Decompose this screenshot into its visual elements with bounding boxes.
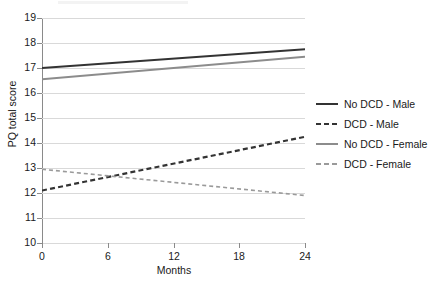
legend-swatch-icon (316, 159, 338, 169)
legend-item-no-dcd-female[interactable]: No DCD - Female (316, 134, 433, 154)
chart-legend: No DCD - MaleDCD - MaleNo DCD - FemaleDC… (316, 94, 433, 174)
series-line-dcd-female (42, 169, 305, 195)
y-axis-title: PQ total score (6, 54, 18, 174)
x-tick-label-12: 12 (159, 250, 189, 262)
x-tick-mark-18 (239, 243, 240, 248)
legend-item-dcd-male[interactable]: DCD - Male (316, 114, 433, 134)
y-tick-label-19: 19 (2, 12, 36, 23)
x-tick-label-24: 24 (290, 250, 320, 262)
x-axis-title: Months (42, 264, 306, 276)
legend-label: DCD - Female (344, 158, 411, 170)
x-tick-label-6: 6 (93, 250, 123, 262)
legend-label: No DCD - Male (344, 98, 415, 110)
x-tick-mark-0 (42, 243, 43, 248)
x-tick-label-18: 18 (224, 250, 254, 262)
x-tick-mark-6 (108, 243, 109, 248)
scan-artifact (58, 1, 188, 4)
legend-item-no-dcd-male[interactable]: No DCD - Male (316, 94, 433, 114)
y-tick-label-18: 18 (2, 37, 36, 48)
series-lines (42, 18, 305, 243)
legend-swatch-icon (316, 139, 338, 149)
y-tick-label-11: 11 (2, 212, 36, 223)
x-tick-mark-12 (174, 243, 175, 248)
y-tick-label-10: 10 (2, 237, 36, 248)
legend-label: DCD - Male (344, 118, 399, 130)
series-line-dcd-male (42, 137, 305, 191)
legend-swatch-icon (316, 119, 338, 129)
legend-swatch-icon (316, 99, 338, 109)
x-tick-mark-24 (305, 243, 306, 248)
legend-item-dcd-female[interactable]: DCD - Female (316, 154, 433, 174)
y-tick-label-12: 12 (2, 187, 36, 198)
chart-figure: 10111213141516171819 06121824 Months PQ … (0, 0, 433, 281)
series-line-no-dcd-female (42, 57, 305, 80)
x-tick-label-0: 0 (27, 250, 57, 262)
series-line-no-dcd-male (42, 49, 305, 68)
legend-label: No DCD - Female (344, 138, 427, 150)
